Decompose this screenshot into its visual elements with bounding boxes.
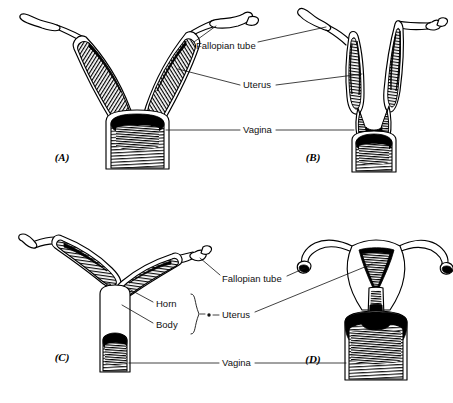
panel-d-vagina xyxy=(345,311,407,380)
label-body: Body xyxy=(156,319,178,330)
panel-c-vagina xyxy=(100,285,130,372)
panel-c-letter: (C) xyxy=(55,351,70,364)
label-vagina-top: Vagina xyxy=(243,124,273,135)
panel-b-letter: (B) xyxy=(306,151,321,164)
label-vagina-bottom: Vagina xyxy=(222,357,252,368)
uterus-types-diagram: (A) xyxy=(0,0,453,403)
panel-b-vagina xyxy=(352,131,396,172)
label-uterus-top: Uterus xyxy=(243,79,271,90)
brace-dot xyxy=(207,313,210,316)
panel-a-letter: (A) xyxy=(55,151,70,164)
label-fallopian-tube-bottom: Fallopian tube xyxy=(222,273,282,284)
label-horn: Horn xyxy=(156,298,177,309)
panel-a-vagina xyxy=(106,110,169,169)
label-uterus-bottom: Uterus xyxy=(222,309,250,320)
figure-container: (A) xyxy=(0,0,453,403)
label-fallopian-tube-top: Fallopian tube xyxy=(196,40,256,51)
panel-d-letter: (D) xyxy=(305,353,320,366)
